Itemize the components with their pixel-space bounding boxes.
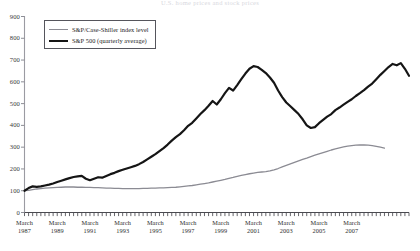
- x-axis-tick-year: 2007: [332, 227, 372, 235]
- legend-line-icon: [49, 29, 68, 30]
- y-axis-tick-label: 600: [0, 78, 20, 85]
- y-axis-tick-label: 800: [0, 34, 20, 41]
- y-axis-tick-label: 500: [0, 100, 20, 107]
- legend-item-label: S&P 500 (quarterly average): [72, 37, 147, 44]
- y-axis-tick-label: 900: [0, 13, 20, 20]
- chart-legend: S&P/Case-Shiller index level S&P 500 (qu…: [44, 20, 156, 49]
- y-axis-tick-label: 400: [0, 121, 20, 128]
- legend-item: S&P 500 (quarterly average): [49, 35, 151, 46]
- x-axis-ticks: [25, 213, 410, 217]
- y-axis-tick-label: 300: [0, 143, 20, 150]
- chart-series-line: [25, 145, 385, 191]
- y-axis-tick-label: 700: [0, 56, 20, 63]
- x-axis-tick-label: March2007: [332, 219, 372, 235]
- legend-item-label: S&P/Case-Shiller index level: [72, 26, 149, 33]
- y-axis-tick-label: 200: [0, 165, 20, 172]
- chart-series-line: [25, 63, 410, 191]
- legend-line-icon: [49, 40, 68, 42]
- chart-series-group: [25, 63, 410, 191]
- y-axis-tick-label: 100: [0, 187, 20, 194]
- y-axis-tick-label: 0: [0, 209, 20, 216]
- chart-container: U.S. home prices and stock prices 010020…: [0, 0, 420, 251]
- legend-item: S&P/Case-Shiller index level: [49, 24, 151, 35]
- x-axis-tick-month: March: [332, 219, 372, 227]
